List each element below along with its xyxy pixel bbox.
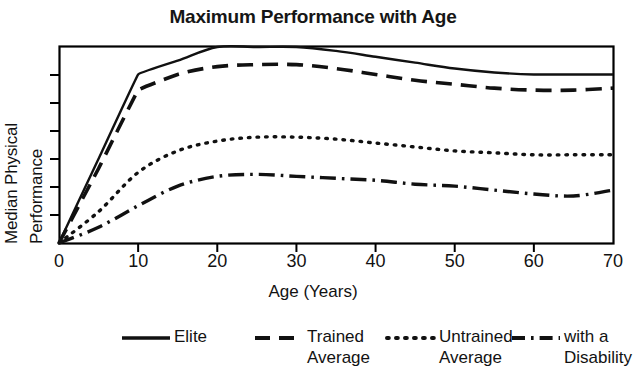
legend-item-trained[interactable]: Trained Average — [253, 326, 370, 368]
legend-label: Untrained Average — [439, 326, 513, 368]
x-axis-tick-label: 40 — [356, 251, 396, 272]
x-axis-tick-label: 10 — [118, 251, 158, 272]
legend-label: Elite — [174, 326, 207, 347]
chart-legend: EliteTrained AverageUntrained Averagewit… — [0, 326, 626, 382]
plot-frame — [60, 47, 614, 244]
data-series-layer — [59, 46, 613, 243]
x-axis-tick-label: 50 — [435, 251, 475, 272]
legend-swatch-solid — [120, 327, 172, 347]
x-axis-tick-label: 30 — [276, 251, 316, 272]
legend-item-untrained[interactable]: Untrained Average — [385, 326, 513, 368]
legend-swatch-dotted — [385, 327, 437, 347]
series-line-with-a-disability — [59, 174, 613, 243]
y-axis-ticks — [50, 75, 59, 215]
x-axis-tick-label: 20 — [197, 251, 237, 272]
x-axis-tick-label: 0 — [39, 251, 79, 272]
legend-label: with a Disability — [564, 326, 632, 368]
series-line-trained-average — [59, 64, 613, 243]
legend-swatch-dashdot — [510, 327, 562, 347]
legend-label: Trained Average — [307, 326, 370, 368]
legend-item-elite[interactable]: Elite — [120, 326, 207, 347]
series-line-elite — [59, 46, 613, 243]
x-axis-tick-label: 60 — [514, 251, 554, 272]
x-axis-tick-label: 70 — [593, 251, 633, 272]
legend-item-with-a[interactable]: with a Disability — [510, 326, 632, 368]
legend-swatch-dashed — [253, 327, 305, 347]
x-axis-label: Age (Years) — [0, 282, 626, 302]
series-line-untrained-average — [59, 137, 613, 243]
